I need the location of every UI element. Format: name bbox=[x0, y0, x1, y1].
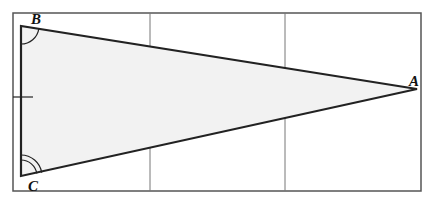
vertex-label-b: B bbox=[30, 11, 41, 27]
vertex-label-a: A bbox=[408, 73, 419, 89]
triangle-diagram: B C A bbox=[0, 0, 432, 204]
vertex-label-c: C bbox=[28, 178, 39, 194]
triangle-abc bbox=[21, 26, 417, 176]
